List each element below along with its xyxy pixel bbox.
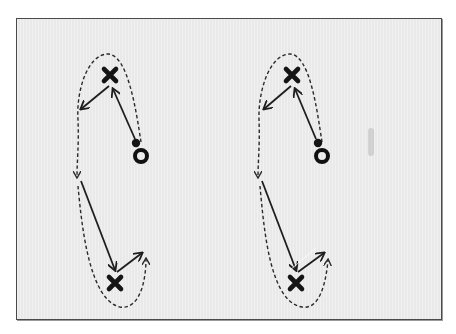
defender-x-icon [290,277,302,289]
pass-arrow-right [117,253,142,272]
attacker-o-icon [316,150,328,162]
highlight-streak [290,248,316,270]
pass-arrow-down [262,181,296,270]
pass-arrow-left [81,86,109,109]
ball-icon [132,139,140,147]
ball-icon [314,139,322,147]
pass-arrow-left [264,86,291,109]
drill-diagram [0,0,456,334]
defender-x-icon [109,277,121,289]
left-drill-panel [77,54,147,307]
pass-arrow-down [81,181,115,270]
attacker-o-icon [135,150,147,162]
defender-x-icon [286,69,298,81]
pass-arrow-right [298,253,324,272]
defender-x-icon [104,69,116,81]
right-drill-panel [258,54,328,307]
pass-arrow-up [113,89,135,139]
pass-arrow-up [295,89,316,139]
